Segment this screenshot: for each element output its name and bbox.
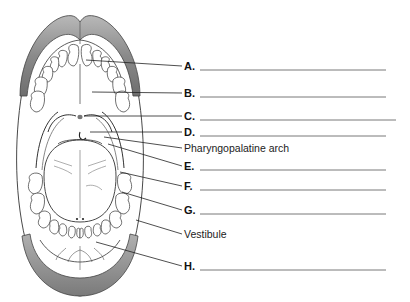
label-pharyngopalatine-arch: Pharyngopalatine arch [184, 143, 289, 154]
label-h: H. [184, 261, 195, 272]
label-a: A. [184, 61, 195, 72]
label-e: E. [184, 161, 194, 172]
label-d: D. [184, 127, 195, 138]
answer-blanks [200, 70, 396, 270]
label-g: G. [184, 205, 196, 216]
oral-cavity-diagram: A. B. C. D. Pharyngopalatine arch E. F. … [0, 0, 410, 302]
label-c: C. [184, 111, 195, 122]
label-vestibule: Vestibule [184, 229, 227, 240]
label-f: F. [184, 181, 193, 192]
label-b: B. [184, 88, 195, 99]
